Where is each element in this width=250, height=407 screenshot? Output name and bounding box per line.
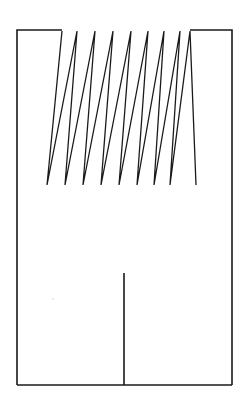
figure-canvas (0, 0, 250, 407)
line-drawing-figure (0, 0, 250, 407)
scan-speck (52, 298, 54, 300)
